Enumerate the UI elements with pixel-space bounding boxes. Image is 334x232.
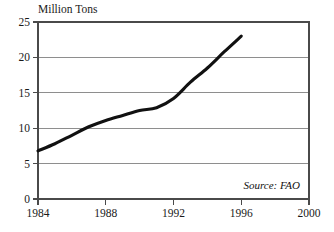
- data-line-production: [38, 36, 241, 151]
- y-tick-label-20: 20: [19, 51, 31, 63]
- x-axis-tick-labels: 1984 1988 1992 1996 2000: [27, 207, 321, 219]
- gridlines: [38, 57, 309, 163]
- x-tick-label-1996: 1996: [230, 207, 253, 219]
- y-tick-label-5: 5: [24, 158, 30, 170]
- y-axis-title: Million Tons: [38, 3, 98, 15]
- chart-figure: Million Tons 25 20 15 10 5 0: [0, 0, 334, 232]
- y-tick-label-10: 10: [19, 122, 31, 134]
- x-tick-label-1988: 1988: [94, 207, 117, 219]
- y-axis-tickmarks: [33, 22, 38, 199]
- plot-border: [38, 22, 309, 199]
- x-tick-label-2000: 2000: [298, 207, 321, 219]
- plot-frame: [38, 22, 309, 199]
- x-tick-label-1984: 1984: [27, 207, 50, 219]
- x-tick-label-1992: 1992: [162, 207, 185, 219]
- line-chart: Million Tons 25 20 15 10 5 0: [0, 0, 334, 232]
- y-tick-label-15: 15: [19, 87, 31, 99]
- y-tick-label-25: 25: [19, 16, 31, 28]
- x-axis-tickmarks: [38, 199, 309, 205]
- y-axis-tick-labels: 25 20 15 10 5 0: [19, 16, 31, 205]
- source-annotation: Source: FAO: [243, 179, 300, 191]
- y-tick-label-0: 0: [24, 193, 30, 205]
